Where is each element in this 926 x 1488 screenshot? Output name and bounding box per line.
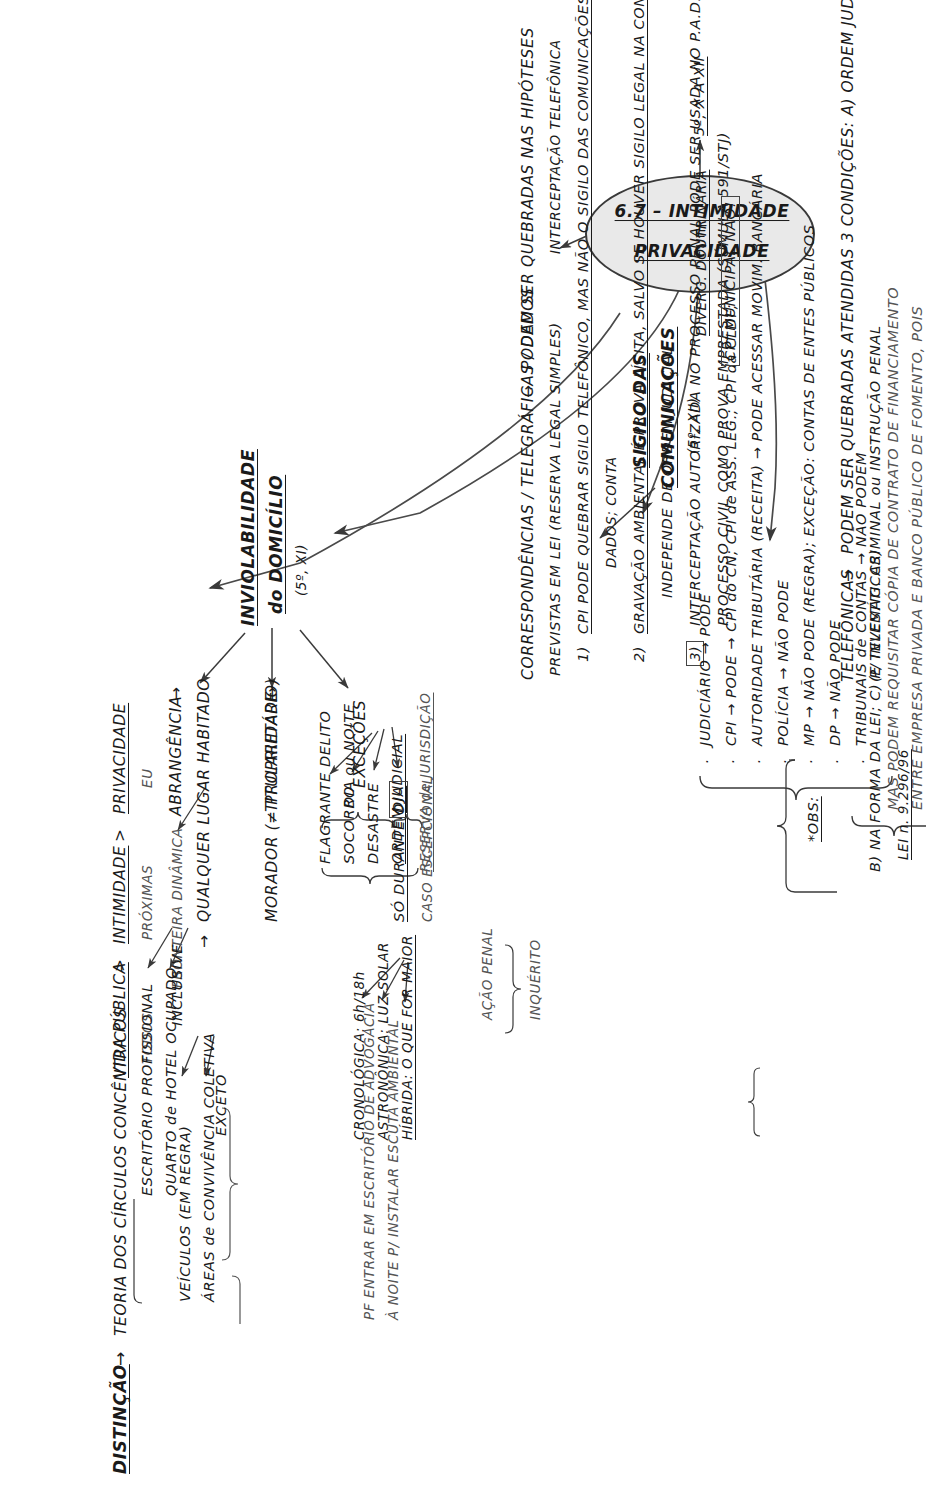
obs-2-num: 2) [632,646,647,662]
obs-1-text: CPI PODE QUEBRAR SIGILO TELEFÔNICO, MAS … [576,0,591,634]
obs-label: *OBS: [806,796,821,842]
branch-distincao-title[interactable]: DISTINÇÃO [112,1364,130,1474]
abrangencia-item-0: ESCRITÓRIO PROFISSIONAL [140,983,155,1196]
sigilo-bancario-item-6: TRIBUNAIS de CONTAS → NÃO PODEM [854,452,869,746]
abrangencia-text: QUALQUER LUGAR HABITADO [196,678,212,922]
hierarchy-privacidade: PRIVACIDADE [112,703,128,814]
sigilo-bancario-bullet-3: · [778,759,792,764]
hierarchy-sub-eu: EU [140,768,154,788]
hierarchy-vida-publica: VIDA PÚBLICA [112,962,128,1078]
sigilo-bancario-item-0: JUDICIÁRIO → PODE [698,594,713,746]
branch-inviolabilidade-reference: (5º, XI) [294,544,308,596]
hierarchy-gt-2: > [112,828,128,842]
abrangencia-label: ABRANGÊNCIA [168,696,184,816]
obs-2-text: GRAVAÇÃO AMBIENTAL É PROVA LÍCITA, SALVO… [632,0,647,634]
titularidade-text: MORADOR (≠ PROPRIETÁRIO) [264,678,280,922]
excecoes-bracket-dia-ou-noite: DIA ou NOITE [342,704,357,808]
sigilo-bancario-item-3: POLÍCIA → NÃO PODE [776,580,791,746]
correspondencias-heading-tail: PODEM SER QUEBRADAS NAS HIPÓTESES [520,27,536,370]
hierarchy-gt-1: > [112,958,128,972]
excecoes-item-2: DESASTRE [366,782,381,864]
excecoes-caso-excepcional: CASO ESCEPCIONAL [420,776,434,922]
pf-escuta-note-line2: À NOITE P/ INSTALAR ESCUTA AMBIENTAL [386,1019,400,1320]
excecoes-bracket-so-durante: SÓ DURANTE O [392,803,407,922]
sigilo-bancario-bullet-4: · [804,759,818,764]
sigilo-bancario-item-4: MP → NÃO PODE (REGRA); EXCEÇÃO: CONTAS D… [802,224,817,746]
telefonicas-ann-acao-penal: AÇÃO PENAL [480,928,494,1020]
sigilo-bancario-footnote-0: MAS PODEM REQUISITAR CÓPIA DE CONTRATO D… [886,287,901,810]
diverg-doutrinaria-note: DIVERG. DOUTRINÁRIA [694,170,708,336]
obs-2-sub: INDEPENDE DE ORDEM JUDICIAL [660,346,675,598]
dia-tipo-hibrida: HÍBRIDA: O QUE FOR MAIOR [400,935,416,1140]
excecoes-item-0: FLAGRANTE DELITO [318,710,333,864]
cpi-municipal-nao-box: CPI MUNICIPAL NÃO! [721,196,740,366]
sigilo-bancario-bullet-1: · [726,759,740,764]
correspondencias-line2: PREVISTAS EM LEI (RESERVA LEGAL SIMPLES) [548,322,563,676]
abrangencia-exceto-item-1: ÁREAS de CONVIVÊNCIA COLETIVA [202,1033,217,1302]
excecoes-dia-box: DIA [389,781,408,818]
sigilo-bancario-item-5: DP → NÃO PODE [828,620,843,746]
sigilo-bancario-bullet-5: · [830,759,844,764]
telefonicas-line-b: B) NA FORMA DA LEI; C) P/ INVESTIG. CRIM… [868,325,883,872]
abrangencia-arrow: → [168,686,184,700]
branch-distincao-arrow: → [112,1351,130,1366]
branch-inviolabilidade-subtitle: do DOMICÍLIO [268,475,286,614]
sigilo-bancario-footnote-1: ENTRE EMPRESA PRIVADA E BANCO PÚBLICO DE… [910,306,925,810]
sigilo-bancario-bullet-6: · [856,759,870,764]
sigilo-bancario-bullet-2: · [752,759,766,764]
hierarchy-sub-proximas: PRÓXIMAS [140,865,154,940]
sigilo-bancario-item-2: AUTORIDADE TRIBUTÁRIA (RECEITA) → PODE A… [750,173,765,746]
hierarchy-intimidade: INTIMIDADE [112,846,128,944]
mindmap-sheet: 6.7 – INTIMIDADE E PRIVACIDADE 5º, X A X… [0,0,926,1488]
branch-inviolabilidade-title[interactable]: INVIOLABILIDADE [240,449,258,626]
telefonicas-ann-inquerito: INQUÉRITO [528,939,542,1020]
obs-1-sub-right: INTERCEPTAÇÃO TELEFÔNICA [548,39,562,254]
correspondencias-heading-arrow: → [520,384,536,398]
obs-1-num: 1) [576,646,591,662]
abrangencia-exceto-item-0: VEÍCULOS (EM REGRA) [178,1126,193,1302]
abrangencia-arrow-2: → [196,934,212,948]
sigilo-bancario-item-1: CPI → PODE → CPI do CN; CPI de ASS. LEG.… [724,304,739,746]
sigilo-bancario-bullet-0: · [700,759,714,764]
obs-1-sub-left: DADOS; CONTA [604,456,618,568]
pf-escuta-note-line1: PF ENTRAR EM ESCRITÓRIO DE ADVOGACIA [362,1002,376,1320]
